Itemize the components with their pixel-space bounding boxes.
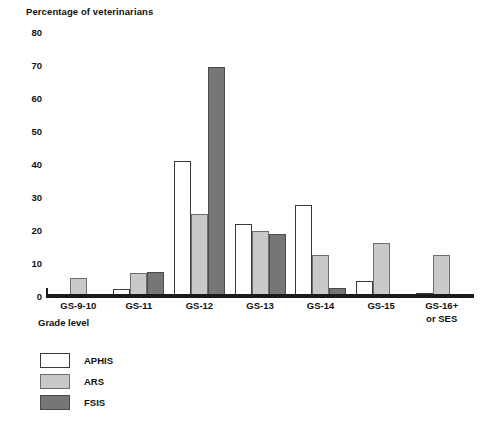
bar-group <box>235 32 286 296</box>
y-axis-title: Percentage of veterinarians <box>26 6 153 17</box>
y-tick-label: 0 <box>20 291 42 302</box>
x-tick-label: GS-9-10 <box>60 300 96 313</box>
x-tick-label: GS-16+or SES <box>425 300 458 325</box>
bar-group <box>416 32 467 296</box>
legend-item: FSIS <box>40 392 113 413</box>
y-tick-label: 20 <box>20 225 42 236</box>
bar <box>269 234 286 296</box>
bar <box>208 67 225 296</box>
x-tick-label: GS-11 <box>125 300 152 313</box>
legend-item: ARS <box>40 371 113 392</box>
bar-chart: Percentage of veterinarians 010203040506… <box>0 0 490 434</box>
x-axis-line <box>46 294 474 298</box>
legend-label: APHIS <box>84 355 113 366</box>
x-tick-label: GS-15 <box>367 300 394 313</box>
y-axis-tick-labels: 01020304050607080 <box>18 32 42 296</box>
bar <box>147 272 164 296</box>
legend-swatch-aphis <box>40 353 70 368</box>
bar <box>295 205 312 296</box>
bar <box>191 214 208 297</box>
bar-group <box>356 32 407 296</box>
x-tick-label: GS-12 <box>186 300 213 313</box>
y-tick-label: 10 <box>20 258 42 269</box>
bar-group <box>295 32 346 296</box>
plot-area <box>48 32 472 296</box>
x-tick-label: GS-13 <box>246 300 273 313</box>
legend-swatch-fsis <box>40 395 70 410</box>
legend: APHISARSFSIS <box>40 350 113 413</box>
legend-item: APHIS <box>40 350 113 371</box>
bar <box>130 273 147 296</box>
y-tick-label: 30 <box>20 192 42 203</box>
bar <box>433 255 450 296</box>
x-axis-title: Grade level <box>38 317 89 328</box>
x-axis-tick-labels: GS-9-10GS-11GS-12GS-13GS-14GS-15GS-16+or… <box>48 300 472 334</box>
legend-label: FSIS <box>84 397 105 408</box>
bar <box>174 161 191 296</box>
bar-group <box>174 32 225 296</box>
bar <box>235 224 252 296</box>
legend-label: ARS <box>84 376 104 387</box>
y-tick-label: 60 <box>20 93 42 104</box>
bar <box>312 255 329 296</box>
legend-swatch-ars <box>40 374 70 389</box>
bar-group <box>113 32 164 296</box>
y-tick-label: 80 <box>20 27 42 38</box>
y-tick-label: 40 <box>20 159 42 170</box>
x-tick-label: GS-14 <box>307 300 334 313</box>
bar <box>373 243 390 296</box>
y-tick-label: 50 <box>20 126 42 137</box>
bar-group <box>53 32 104 296</box>
y-tick-label: 70 <box>20 60 42 71</box>
bar <box>252 231 269 296</box>
